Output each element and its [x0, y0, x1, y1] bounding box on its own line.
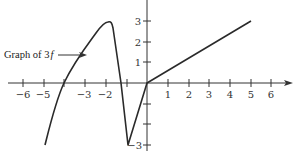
graph-canvas: −6 −5 −3 −2 1 2 3 4 5 6 3 2 1 −3 Graph o…: [0, 0, 295, 151]
annotation-graph-of-3f: Graph of 3f: [4, 49, 87, 60]
x-tick-label: 4: [227, 89, 233, 100]
annotation-label: Graph of 3f: [4, 49, 56, 60]
x-tick-label: 5: [248, 89, 254, 100]
x-tick-label: 3: [206, 89, 212, 100]
x-tick-label: −3: [77, 89, 92, 100]
y-tick-label: 2: [135, 37, 141, 48]
x-tick-label: −2: [98, 89, 113, 100]
x-tick-label: −5: [36, 89, 51, 100]
y-tick-label: 1: [135, 57, 141, 68]
y-axis: 3 2 1 −3: [127, 0, 151, 151]
y-tick-label: 3: [135, 16, 141, 27]
x-tick-label: 2: [186, 89, 192, 100]
x-tick-label: 1: [165, 89, 171, 100]
x-tick-label: −6: [16, 89, 31, 100]
x-tick-label: 6: [268, 89, 274, 100]
x-axis: −6 −5 −3 −2 1 2 3 4 5 6: [8, 79, 293, 100]
